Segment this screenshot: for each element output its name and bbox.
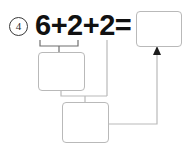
connector-partial-to-total: [61, 91, 107, 102]
equation-expression: 6+2+2=: [35, 9, 131, 41]
arrow-up-icon: [153, 46, 161, 55]
connector-total-to-answer: [109, 52, 157, 124]
total-sum-input-box[interactable]: [62, 102, 109, 143]
bracket-icon: [40, 40, 78, 52]
answer-input-box[interactable]: [136, 11, 182, 47]
partial-sum-input-box[interactable]: [38, 52, 85, 91]
math-worksheet-problem: 4 6+2+2=: [0, 0, 191, 153]
problem-number-badge: 4: [9, 17, 28, 36]
